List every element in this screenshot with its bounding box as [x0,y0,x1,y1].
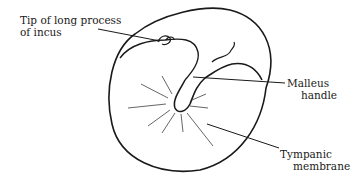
label-incus-line-2: of incus [20,26,121,38]
light-ray [141,84,168,98]
light-ray [148,110,170,126]
pars-flaccida-outline [120,39,198,80]
label-tympanic-line-1: Tympanic [280,148,350,160]
light-ray [190,106,208,108]
leader-line-tympanic [207,124,279,148]
leader-line-malleus [193,77,285,83]
label-tympanic-membrane: Tympanic membrane [280,148,350,172]
malleus-handle [174,64,262,112]
membrane-outline [109,8,271,171]
light-ray [162,76,172,94]
light-ray [128,104,166,108]
light-ray [162,113,175,133]
label-incus-tip: Tip of long process of incus [20,14,121,38]
label-tympanic-line-2: membrane [280,160,350,172]
light-ray [181,114,183,132]
light-ray [187,113,213,146]
label-malleus-handle: Malleus handle [287,77,337,101]
lateral-process [212,42,235,62]
label-malleus-line-1: Malleus [287,77,337,89]
label-incus-line-1: Tip of long process [20,14,121,26]
light-reflex-rays [128,76,213,146]
label-malleus-line-2: handle [287,89,337,101]
